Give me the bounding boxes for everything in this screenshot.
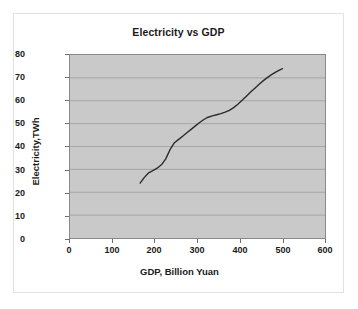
plot-area bbox=[69, 54, 326, 239]
y-tick-label: 40 bbox=[0, 141, 25, 151]
y-tick-label: 10 bbox=[0, 211, 25, 221]
chart-title: Electricity vs GDP bbox=[14, 26, 343, 38]
y-tick-label: 60 bbox=[0, 95, 25, 105]
x-tick-label: 300 bbox=[177, 245, 217, 255]
x-tick-mark bbox=[240, 239, 241, 243]
y-axis-title: Electricity,TWh bbox=[30, 92, 41, 212]
plot-svg bbox=[70, 55, 325, 238]
x-tick-mark bbox=[69, 239, 70, 243]
x-tick-label: 0 bbox=[49, 245, 89, 255]
y-tick-label: 20 bbox=[0, 188, 25, 198]
y-tick-mark bbox=[65, 216, 69, 217]
y-tick-mark bbox=[65, 100, 69, 101]
x-tick-label: 600 bbox=[305, 245, 345, 255]
y-tick-label: 0 bbox=[0, 234, 25, 244]
y-tick-label: 80 bbox=[0, 49, 25, 59]
x-tick-mark bbox=[283, 239, 284, 243]
y-tick-label: 70 bbox=[0, 72, 25, 82]
y-tick-mark bbox=[65, 146, 69, 147]
y-tick-label: 30 bbox=[0, 165, 25, 175]
x-tick-mark bbox=[197, 239, 198, 243]
y-tick-mark bbox=[65, 54, 69, 55]
y-tick-mark bbox=[65, 77, 69, 78]
y-tick-mark bbox=[65, 123, 69, 124]
x-tick-label: 200 bbox=[134, 245, 174, 255]
chart-frame: Electricity vs GDP 80 70 60 50 40 30 20 … bbox=[13, 13, 344, 293]
y-tick-mark bbox=[65, 193, 69, 194]
x-tick-label: 500 bbox=[263, 245, 303, 255]
gridlines bbox=[70, 78, 325, 215]
x-tick-mark bbox=[325, 239, 326, 243]
x-tick-mark bbox=[154, 239, 155, 243]
x-tick-mark bbox=[112, 239, 113, 243]
y-tick-mark bbox=[65, 170, 69, 171]
y-tick-label: 50 bbox=[0, 118, 25, 128]
x-tick-label: 400 bbox=[220, 245, 260, 255]
x-tick-label: 100 bbox=[92, 245, 132, 255]
x-axis-title: GDP, Billion Yuan bbox=[14, 266, 345, 277]
data-series-line bbox=[140, 69, 282, 183]
